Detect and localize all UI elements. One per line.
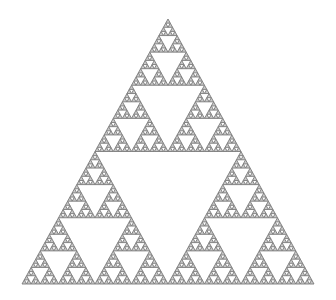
triangle-cell — [182, 123, 187, 127]
triangle-cell — [141, 280, 146, 284]
triangle-cell — [259, 247, 264, 251]
triangle-cell — [278, 222, 283, 226]
triangle-cell — [207, 209, 212, 213]
triangle-cell — [177, 48, 182, 52]
triangle-cell — [264, 214, 269, 218]
triangle-cell — [189, 243, 194, 247]
triangle-cell — [77, 180, 82, 184]
triangle-cell — [186, 56, 191, 60]
triangle-cell — [84, 168, 89, 172]
triangle-cell — [186, 280, 191, 284]
triangle-cell — [31, 280, 36, 284]
triangle-cell — [220, 185, 225, 189]
triangle-cell — [168, 280, 173, 284]
triangle-cell — [191, 238, 196, 242]
triangle-cell — [88, 160, 93, 164]
triangle-cell — [214, 263, 219, 267]
triangle-cell — [77, 197, 82, 201]
triangle-cell — [52, 243, 57, 247]
triangle-cell — [198, 94, 203, 98]
triangle-cell — [182, 255, 187, 259]
triangle-cell — [248, 201, 253, 205]
triangle-cell — [223, 263, 228, 267]
triangle-cell — [109, 131, 114, 135]
triangle-cell — [193, 102, 198, 106]
triangle-cell — [195, 247, 200, 251]
triangle-cell — [175, 267, 180, 271]
triangle-cell — [113, 114, 118, 118]
triangle-cell — [145, 247, 150, 251]
triangle-cell — [52, 276, 57, 280]
triangle-cell — [173, 272, 178, 276]
triangle-cell — [106, 259, 111, 263]
triangle-cell — [211, 135, 216, 139]
triangle-cell — [150, 263, 155, 267]
triangle-cell — [246, 164, 251, 168]
triangle-cell — [166, 19, 171, 23]
triangle-cell — [79, 259, 84, 263]
triangle-cell — [70, 259, 75, 263]
triangle-cell — [70, 193, 75, 197]
triangle-cell — [122, 114, 127, 118]
triangle-cell — [157, 135, 162, 139]
triangle-cell — [262, 209, 267, 213]
triangle-cell — [177, 147, 182, 151]
triangle-cell — [298, 259, 303, 263]
triangle-cell — [205, 89, 210, 93]
triangle-cell — [225, 259, 230, 263]
triangle-cell — [150, 123, 155, 127]
triangle-cell — [189, 60, 194, 64]
triangle-cell — [147, 251, 152, 255]
triangle-cell — [141, 114, 146, 118]
triangle-cell — [168, 48, 173, 52]
triangle-cell — [173, 147, 178, 151]
triangle-cell — [200, 247, 205, 251]
triangle-cell — [259, 263, 264, 267]
triangle-cell — [159, 31, 164, 35]
triangle-cell — [109, 189, 114, 193]
triangle-cell — [189, 259, 194, 263]
triangle-cell — [227, 172, 232, 176]
triangle-cell — [90, 180, 95, 184]
triangle-cell — [136, 114, 141, 118]
triangle-cell — [54, 230, 59, 234]
triangle-cell — [72, 247, 77, 251]
triangle-cell — [86, 272, 91, 276]
triangle-cell — [177, 280, 182, 284]
triangle-cell — [154, 73, 159, 77]
triangle-cell — [147, 52, 152, 56]
triangle-cell — [45, 272, 50, 276]
triangle-cell — [186, 263, 191, 267]
triangle-cell — [250, 205, 255, 209]
triangle-cell — [84, 201, 89, 205]
triangle-cell — [179, 276, 184, 280]
triangle-cell — [216, 276, 221, 280]
triangle-cell — [232, 180, 237, 184]
triangle-cell — [116, 243, 121, 247]
triangle-cell — [232, 172, 237, 176]
triangle-cell — [223, 280, 228, 284]
triangle-cell — [45, 280, 50, 284]
triangle-cell — [141, 139, 146, 143]
triangle-cell — [100, 205, 105, 209]
triangle-cell — [195, 230, 200, 234]
triangle-cell — [81, 172, 86, 176]
triangle-cell — [250, 280, 255, 284]
triangle-cell — [102, 201, 107, 205]
triangle-cell — [255, 197, 260, 201]
triangle-cell — [246, 205, 251, 209]
triangle-cell — [136, 238, 141, 242]
triangle-cell — [184, 251, 189, 255]
triangle-cell — [195, 81, 200, 85]
triangle-cell — [257, 185, 262, 189]
triangle-cell — [259, 255, 264, 259]
triangle-cell — [200, 89, 205, 93]
triangle-cell — [177, 65, 182, 69]
triangle-cell — [273, 280, 278, 284]
triangle-cell — [193, 267, 198, 271]
triangle-cell — [184, 52, 189, 56]
triangle-cell — [36, 255, 41, 259]
triangle-cell — [49, 230, 54, 234]
triangle-cell — [86, 205, 91, 209]
triangle-cell — [218, 189, 223, 193]
